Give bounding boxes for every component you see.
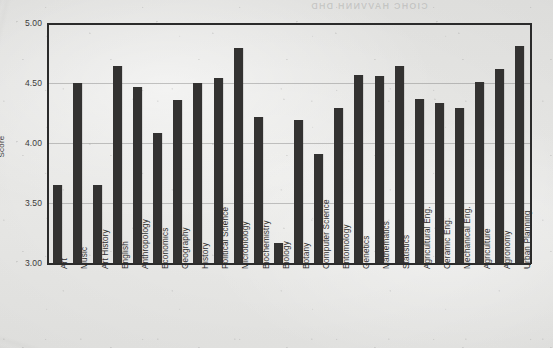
y-axis-tick-label: 4.50 (10, 78, 42, 88)
bar (53, 185, 62, 263)
bar (395, 66, 404, 263)
bar (294, 120, 303, 263)
plot-border-right (530, 23, 532, 264)
x-axis-category-label: Agricultural Eng. (423, 206, 432, 269)
bar-chart: Score 5.004.504.003.503.00 ArtMusicArt H… (0, 0, 553, 348)
x-axis-category-label: History (201, 242, 210, 269)
x-axis-category-label: Music (80, 247, 89, 269)
y-axis-tick-label: 5.00 (10, 18, 42, 28)
y-axis-tick-label: 4.00 (10, 138, 42, 148)
x-axis-category-label: Mathematics (382, 221, 391, 269)
y-axis-title: Score (0, 136, 6, 158)
x-axis-category-label: Biology (282, 241, 291, 269)
y-axis-tick-label: 3.50 (10, 198, 42, 208)
bar (193, 83, 202, 263)
plot-axis-bottom (47, 263, 531, 265)
x-axis-category-label: Biochemistry (262, 220, 271, 269)
x-axis-category-label: Political Science (221, 207, 230, 269)
x-axis-category-label: English (121, 241, 130, 269)
x-axis-category-label: Computer Science (322, 199, 331, 269)
bar (113, 66, 122, 263)
chart-page: CIOHC HAVVNNH DHD Score 5.004.504.003.50… (0, 0, 553, 348)
x-axis-category-label: Mechanical Eng. (463, 206, 472, 269)
bar (73, 83, 82, 263)
plot-axis-left (47, 23, 49, 264)
x-axis-category-label: Ceramic Eng. (443, 218, 452, 269)
y-axis-tick-label: 3.00 (10, 258, 42, 268)
x-axis-category-label: Microbiology (241, 221, 250, 269)
x-axis-category-label: Anthropology (141, 219, 150, 269)
x-axis-category-label: Botany (302, 243, 311, 269)
plot-border-top (47, 23, 531, 25)
